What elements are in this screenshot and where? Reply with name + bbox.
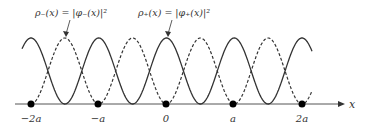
- axis-arrow-icon: [338, 101, 345, 107]
- tick-label: −a: [91, 113, 105, 124]
- tick-label: a: [230, 113, 236, 124]
- rho-plus-curve: [22, 38, 312, 104]
- density-diagram: x −2a −a 0 a 2a ρ₋(x) = |φ₋(x)|² ρ₊(x) =…: [0, 0, 365, 132]
- lattice-site-dot: [299, 101, 306, 108]
- lattice-site-dot: [230, 101, 237, 108]
- tick-label: 2a: [295, 113, 308, 124]
- x-axis-label: x: [349, 98, 356, 111]
- arrowhead-icon: [165, 31, 171, 37]
- arrowhead-icon: [63, 31, 69, 37]
- lattice-site-dot: [28, 101, 35, 108]
- lattice-site-dot: [163, 101, 170, 108]
- tick-label: −2a: [21, 113, 42, 124]
- rho-plus-label: ρ₊(x) = |φ₊(x)|²: [137, 7, 210, 19]
- tick-label: 0: [163, 113, 170, 124]
- rho-minus-label: ρ₋(x) = |φ₋(x)|²: [34, 7, 107, 19]
- lattice-site-dot: [95, 101, 102, 108]
